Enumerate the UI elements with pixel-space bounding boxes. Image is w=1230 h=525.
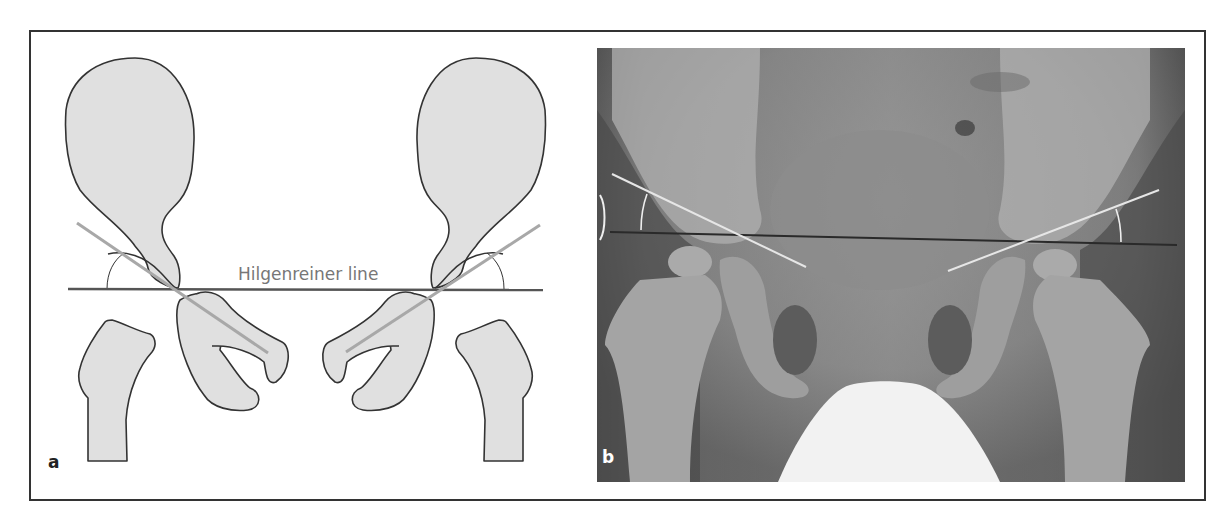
panel-label-a: a: [48, 452, 59, 472]
xray-left-femoral-head: [668, 246, 712, 278]
left-femur: [79, 320, 155, 461]
hilgenreiner-label: Hilgenreiner line: [238, 264, 378, 284]
panel-b-radiograph: [597, 48, 1185, 482]
hilgenreiner-line: [68, 289, 543, 290]
right-femur: [456, 320, 532, 461]
panel-label-b: b: [602, 447, 614, 467]
left-acetabular-angle-arc: [107, 253, 124, 289]
